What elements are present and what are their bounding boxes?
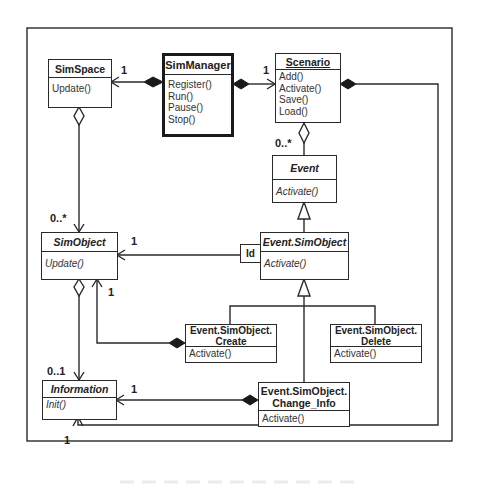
- generalization-arrow: [298, 279, 310, 296]
- qualifier-id[interactable]: Id: [240, 244, 261, 263]
- multiplicity-label: 1: [263, 64, 269, 76]
- generalization-arrow: [298, 202, 310, 219]
- class-name: SimSpace: [49, 60, 111, 78]
- operation: Load(): [279, 106, 337, 118]
- operation: Activate(): [264, 258, 345, 270]
- multiplicity-label: 0..*: [50, 212, 67, 224]
- class-simmanager[interactable]: SimManager Register() Run() Pause() Stop…: [162, 53, 234, 137]
- operation: Init(): [46, 399, 113, 411]
- operation: Update(): [52, 83, 108, 95]
- multiplicity-label: 1: [108, 286, 114, 298]
- operation: Add(): [279, 71, 337, 83]
- operation: Run(): [168, 91, 228, 103]
- operation: Update(): [45, 258, 114, 270]
- aggregation-diamond: [74, 279, 84, 296]
- composition-diamond: [242, 395, 258, 405]
- composition-diamond: [169, 338, 185, 348]
- class-information[interactable]: Information Init(): [42, 380, 117, 420]
- class-name: Event.SimObject. Change_Info: [259, 383, 349, 411]
- class-name: Information: [43, 381, 116, 398]
- class-name: Event.SimObject. Delete: [331, 325, 421, 347]
- figure-caption-faded: [110, 474, 370, 486]
- class-scenario[interactable]: Scenario Add() Activate() Save() Load(): [275, 53, 341, 123]
- operation: Activate(): [262, 413, 346, 425]
- class-event[interactable]: Event Activate(): [272, 155, 337, 203]
- class-name: SimObject: [42, 233, 117, 252]
- multiplicity-label: 0..*: [275, 137, 292, 149]
- operation: Register(): [168, 79, 228, 91]
- operation: Activate(): [279, 83, 337, 95]
- aggregation-diamond: [299, 123, 309, 143]
- multiplicity-label: 1: [131, 383, 137, 395]
- aggregation-diamond: [74, 107, 84, 125]
- operation: Activate(): [189, 348, 273, 360]
- operation: Pause(): [168, 102, 228, 114]
- composition-diamond: [233, 79, 249, 89]
- class-name: Event.SimObject: [261, 233, 348, 252]
- class-event-simobject[interactable]: Event.SimObject Activate(): [260, 232, 349, 280]
- class-simspace[interactable]: SimSpace Update(): [48, 59, 112, 108]
- operation: Stop(): [168, 114, 228, 126]
- operation: Activate(): [276, 186, 333, 198]
- composition-diamond: [144, 77, 163, 87]
- operation: Activate(): [334, 348, 418, 360]
- class-event-simobject-delete[interactable]: Event.SimObject. Delete Activate(): [330, 324, 422, 363]
- class-event-simobject-create[interactable]: Event.SimObject. Create Activate(): [185, 324, 277, 363]
- multiplicity-label: 1: [64, 434, 70, 446]
- multiplicity-label: 1: [121, 64, 127, 76]
- operation: Save(): [279, 94, 337, 106]
- class-name: Event.SimObject. Create: [186, 325, 276, 347]
- class-name: SimManager: [165, 56, 231, 75]
- composition-diamond: [340, 79, 356, 89]
- class-name: Scenario: [276, 54, 340, 70]
- class-event-simobject-change-info[interactable]: Event.SimObject. Change_Info Activate(): [258, 382, 350, 427]
- class-simobject[interactable]: SimObject Update(): [41, 232, 118, 280]
- multiplicity-label: 0..1: [47, 365, 65, 377]
- class-name: Event: [273, 156, 336, 180]
- multiplicity-label: 1: [131, 235, 137, 247]
